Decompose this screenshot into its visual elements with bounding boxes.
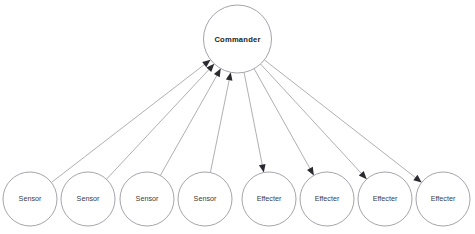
edge-commander-to-effecter-3 <box>261 64 367 179</box>
node-label-sensor-3: Sensor <box>136 194 159 203</box>
arrowheads-layer <box>202 60 422 183</box>
edge-commander-to-effecter-1 <box>244 72 264 172</box>
edge-sensor-4-to-commander <box>210 72 230 172</box>
edge-commander-to-effecter-4 <box>264 60 421 183</box>
arrowhead-icon-edge-effecter-1 <box>259 164 266 172</box>
node-label-effecter-4: Effecter <box>431 194 456 203</box>
nodes-layer: CommanderSensorSensorSensorSensorEffecte… <box>3 5 470 226</box>
node-commander[interactable]: Commander <box>204 5 272 73</box>
node-label-effecter-3: Effecter <box>373 194 398 203</box>
edge-sensor-3-to-commander <box>160 69 220 176</box>
node-label-effecter-1: Effecter <box>257 194 282 203</box>
node-effecter-4[interactable]: Effecter <box>416 172 470 226</box>
node-label-sensor-1: Sensor <box>19 194 42 203</box>
node-label-sensor-4: Sensor <box>194 194 217 203</box>
edge-sensor-1-to-commander <box>51 60 210 183</box>
diagram-svg: CommanderSensorSensorSensorSensorEffecte… <box>0 0 475 234</box>
node-label-sensor-2: Sensor <box>77 194 100 203</box>
arrowhead-icon-edge-sensor-3 <box>214 69 221 78</box>
edge-sensor-2-to-commander <box>106 64 214 179</box>
edges-layer <box>51 60 421 183</box>
node-effecter-1[interactable]: Effecter <box>242 172 296 226</box>
node-sensor-1[interactable]: Sensor <box>3 172 57 226</box>
node-label-commander: Commander <box>214 35 260 44</box>
node-effecter-3[interactable]: Effecter <box>358 172 412 226</box>
node-label-effecter-2: Effecter <box>315 194 340 203</box>
arrowhead-icon-edge-effecter-4 <box>413 175 421 183</box>
edge-commander-to-effecter-2 <box>254 69 314 176</box>
node-effecter-2[interactable]: Effecter <box>300 172 354 226</box>
node-sensor-3[interactable]: Sensor <box>120 172 174 226</box>
node-sensor-2[interactable]: Sensor <box>61 172 115 226</box>
arrowhead-icon-edge-effecter-2 <box>307 167 314 176</box>
diagram-canvas: CommanderSensorSensorSensorSensorEffecte… <box>0 0 475 234</box>
node-sensor-4[interactable]: Sensor <box>178 172 232 226</box>
arrowhead-icon-edge-sensor-4 <box>226 72 233 81</box>
